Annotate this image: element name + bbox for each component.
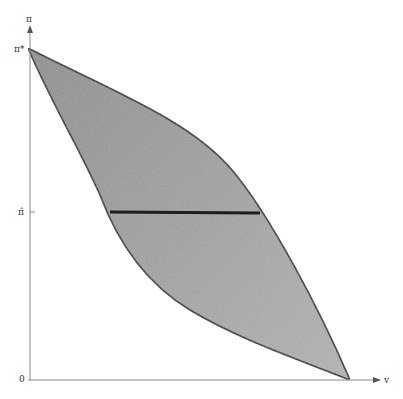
origin-label: 0 xyxy=(19,374,25,384)
pi-hat-label: π̂ xyxy=(18,207,24,217)
y-axis-label: π xyxy=(26,14,32,24)
x-axis-arrow-icon xyxy=(373,377,381,383)
pi-star-label: π* xyxy=(14,44,25,54)
x-axis-label: v xyxy=(383,375,390,385)
pi-hat-segment xyxy=(110,212,260,213)
diagram-canvas: π π* π̂ 0 v xyxy=(0,0,403,399)
y-axis-arrow-icon xyxy=(27,25,33,33)
